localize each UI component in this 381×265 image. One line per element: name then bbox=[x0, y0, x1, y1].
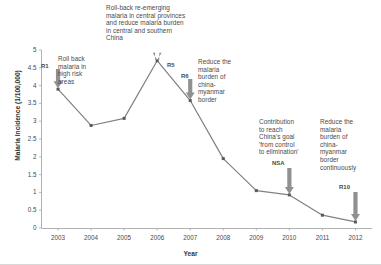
annotation-arrow-r5-icon bbox=[153, 53, 162, 60]
x-tick-label: 2005 bbox=[108, 234, 140, 241]
y-tick-label: 2 bbox=[0, 153, 37, 160]
annotation-text-r1: Roll back malaria in high risk areas bbox=[58, 55, 100, 85]
x-axis-title: Year bbox=[0, 250, 381, 257]
x-tick-label: 2003 bbox=[42, 234, 74, 241]
y-tick-label: 3 bbox=[0, 117, 37, 124]
data-point-marker bbox=[90, 124, 93, 127]
annotation-text-r10: Reduce the malaria burden of china- myan… bbox=[320, 118, 370, 171]
x-tick-label: 2010 bbox=[273, 234, 305, 241]
annotation-arrow-r10-icon bbox=[351, 192, 360, 221]
data-point-marker bbox=[321, 214, 324, 217]
y-tick-label: 0 bbox=[0, 224, 37, 231]
x-tick-label: 2008 bbox=[207, 234, 239, 241]
y-tick-label: 2.5 bbox=[0, 135, 37, 142]
annotation-text-r5: Roll-back re-emerging malaria in central… bbox=[106, 4, 218, 42]
x-tick-label: 2012 bbox=[339, 234, 371, 241]
y-tick-label: 4 bbox=[0, 82, 37, 89]
y-tick-label: 3.5 bbox=[0, 99, 37, 106]
y-tick-label: 1.5 bbox=[0, 171, 37, 178]
y-tick-label: 1 bbox=[0, 188, 37, 195]
data-point-marker bbox=[255, 189, 258, 192]
y-tick-label: 0.5 bbox=[0, 206, 37, 213]
y-tick-label: 5 bbox=[0, 46, 37, 53]
data-point-marker bbox=[222, 157, 225, 160]
x-tick-label: 2011 bbox=[306, 234, 338, 241]
data-point-marker bbox=[123, 117, 126, 120]
annotation-text-nsa: Contribution to reach China's goal 'from… bbox=[259, 118, 311, 156]
x-tick-label: 2004 bbox=[75, 234, 107, 241]
x-tick-label: 2009 bbox=[240, 234, 272, 241]
y-axis-title: Malaria Incidence (1/100,000) bbox=[14, 66, 21, 166]
annotation-code-r6: R6 bbox=[181, 73, 189, 79]
annotation-code-r10: R10 bbox=[339, 184, 350, 190]
y-tick-label: 4.5 bbox=[0, 64, 37, 71]
malaria-incidence-chart-figure: Roll back malaria in high risk areas R1 … bbox=[0, 0, 381, 265]
x-tick-label: 2007 bbox=[174, 234, 206, 241]
x-tick-label: 2006 bbox=[141, 234, 173, 241]
annotation-code-r1: R1 bbox=[41, 63, 49, 69]
annotation-code-nsa: NSA bbox=[272, 160, 285, 166]
annotation-code-r5: R5 bbox=[167, 62, 175, 68]
annotation-arrow-nsa-icon bbox=[285, 168, 294, 194]
annotation-text-r6: Reduce the malaria burden of china- myan… bbox=[198, 58, 242, 104]
